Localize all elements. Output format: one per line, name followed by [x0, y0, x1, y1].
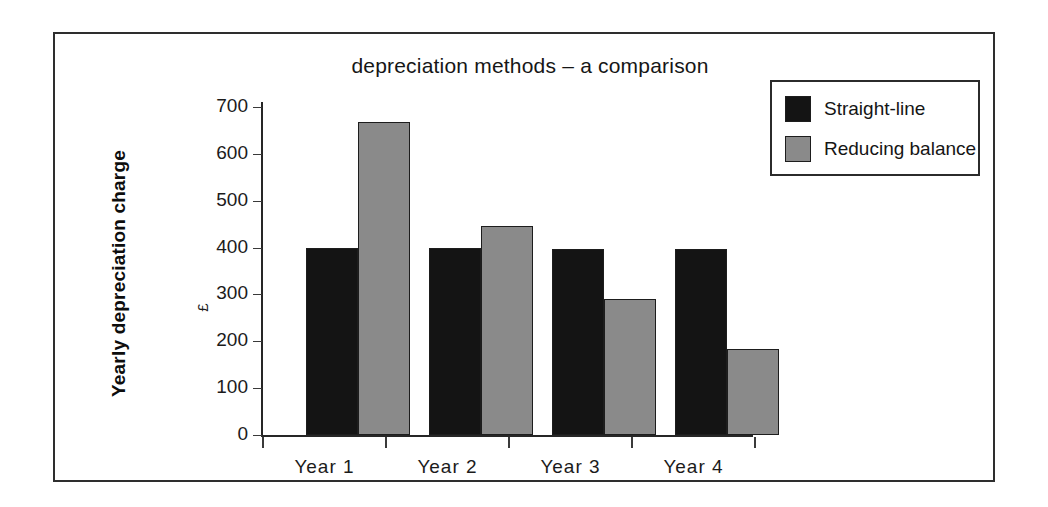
y-axis-unit-label: £	[194, 303, 211, 311]
legend-label: Reducing balance	[824, 138, 976, 160]
y-tick-mark	[253, 294, 262, 295]
y-tick-label: 200	[192, 329, 248, 351]
y-tick-label: 700	[192, 95, 248, 117]
x-axis-line	[261, 435, 753, 437]
x-category-label: Year 1	[263, 456, 386, 478]
y-tick-label: 600	[192, 142, 248, 164]
y-axis-line	[261, 102, 263, 437]
y-tick-mark	[253, 201, 262, 202]
y-tick-mark	[253, 388, 262, 389]
x-category-label: Year 4	[632, 456, 755, 478]
y-tick-mark	[253, 248, 262, 249]
bar	[429, 248, 481, 435]
y-axis-title: Yearly depreciation charge	[108, 157, 130, 397]
legend-swatch-icon	[785, 136, 811, 162]
legend-item: Reducing balance	[785, 136, 976, 162]
y-tick-label: 0	[192, 423, 248, 445]
legend-label: Straight-line	[824, 98, 925, 120]
bar	[604, 299, 656, 435]
x-category-label: Year 2	[386, 456, 509, 478]
y-tick-mark	[253, 154, 262, 155]
bar	[675, 249, 727, 435]
figure-frame: depreciation methods – a comparison 0100…	[53, 32, 995, 482]
legend-swatch-icon	[785, 96, 811, 122]
y-tick-label: 100	[192, 376, 248, 398]
bar	[358, 122, 410, 435]
legend-item: Straight-line	[785, 96, 925, 122]
x-tick-mark	[631, 437, 633, 448]
y-tick-mark	[253, 341, 262, 342]
y-tick-label: 400	[192, 236, 248, 258]
x-tick-mark	[262, 437, 264, 448]
legend: Straight-lineReducing balance	[770, 80, 980, 176]
x-category-label: Year 3	[509, 456, 632, 478]
y-tick-label: 500	[192, 189, 248, 211]
bar	[552, 249, 604, 435]
bar	[481, 226, 533, 435]
bar	[727, 349, 779, 435]
x-tick-mark	[754, 437, 756, 448]
x-tick-mark	[508, 437, 510, 448]
y-tick-mark	[253, 435, 262, 436]
y-tick-mark	[253, 107, 262, 108]
y-tick-label: 300	[192, 282, 248, 304]
bar	[306, 248, 358, 435]
x-tick-mark	[385, 437, 387, 448]
